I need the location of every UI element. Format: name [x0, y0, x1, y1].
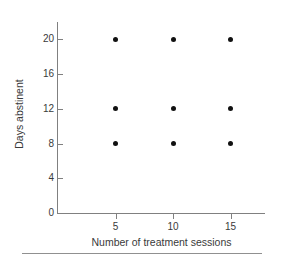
y-tick-label: 0 [30, 208, 54, 218]
x-axis-line [57, 213, 265, 214]
y-tick-label: 8 [30, 139, 54, 149]
data-point [228, 37, 233, 42]
y-tick-label-text: 8 [34, 139, 54, 149]
x-tick-mark [173, 214, 174, 219]
y-tick-label: 20 [30, 34, 54, 44]
data-point [113, 141, 118, 146]
plot-area [58, 22, 265, 213]
y-tick-label-text: 0 [34, 208, 54, 218]
x-tick-label: 10 [158, 221, 188, 232]
data-point [171, 37, 176, 42]
y-axis-title: Days abstinent [13, 59, 25, 169]
y-tick-label-text: 16 [34, 69, 54, 79]
y-tick-label-text: 12 [34, 104, 54, 114]
x-axis-title: Number of treatment sessions [58, 236, 265, 248]
y-tick-label: 4 [30, 173, 54, 183]
bottom-divider [22, 253, 262, 254]
scatter-plot-figure: 048121620 51015 Number of treatment sess… [0, 0, 281, 260]
x-tick-mark [231, 214, 232, 219]
x-tick-label: 5 [101, 221, 131, 232]
data-point [113, 37, 118, 42]
data-point [171, 141, 176, 146]
y-tick-label: 16 [30, 69, 54, 79]
data-point [171, 106, 176, 111]
y-tick-mark [58, 213, 63, 214]
data-point [228, 141, 233, 146]
x-tick-mark [116, 214, 117, 219]
y-tick-label-text: 4 [34, 173, 54, 183]
x-tick-label: 15 [216, 221, 246, 232]
y-tick-label-text: 20 [34, 34, 54, 44]
y-tick-label: 12 [30, 104, 54, 114]
